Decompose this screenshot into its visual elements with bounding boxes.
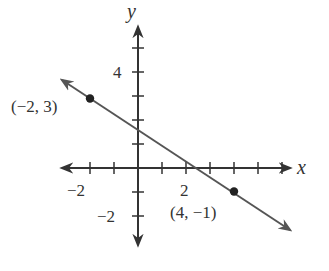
y-axis-label: y [125, 0, 136, 23]
x-tick-label-2: 2 [180, 181, 189, 200]
point-neg2-3 [86, 94, 94, 102]
point-label-neg2-3: (−2, 3) [11, 97, 57, 116]
point-4-neg1 [230, 187, 238, 195]
x-axis-label: x [296, 156, 306, 178]
point-label-4-neg1: (4, −1) [170, 203, 216, 222]
coordinate-plane: y x 4 −2 −2 2 (−2, 3) (4, −1) [0, 0, 329, 271]
y-tick-label-neg2: −2 [97, 207, 115, 226]
y-tick-label-4: 4 [113, 63, 122, 82]
x-tick-label-neg2: −2 [67, 181, 85, 200]
